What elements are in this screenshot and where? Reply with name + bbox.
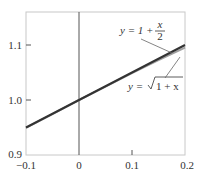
annotation-linear-denominator: 2 xyxy=(157,30,163,42)
y-tick-label: 1.0 xyxy=(8,94,22,106)
x-tick-label: 0 xyxy=(76,159,82,171)
annotation-sqrt-prefix: y = xyxy=(127,80,143,92)
annotation-linear-numerator: x xyxy=(157,18,163,30)
x-tick-label: 0.1 xyxy=(125,159,139,171)
leader-line xyxy=(165,57,180,78)
annotation-linear-prefix: y = 1 + xyxy=(119,24,153,36)
x-tick-label: 0.2 xyxy=(180,159,194,171)
x-tick-label: −0.1 xyxy=(16,159,36,171)
y-tick-label: 1.1 xyxy=(8,39,22,51)
annotation-sqrt-radicand: 1 + x xyxy=(156,80,179,92)
chart: 1.1 1.0 0.9 −0.1 0 0.1 0.2 y = 1 + x 2 y… xyxy=(0,0,201,181)
annotation-linear: y = 1 + x 2 xyxy=(119,18,172,53)
